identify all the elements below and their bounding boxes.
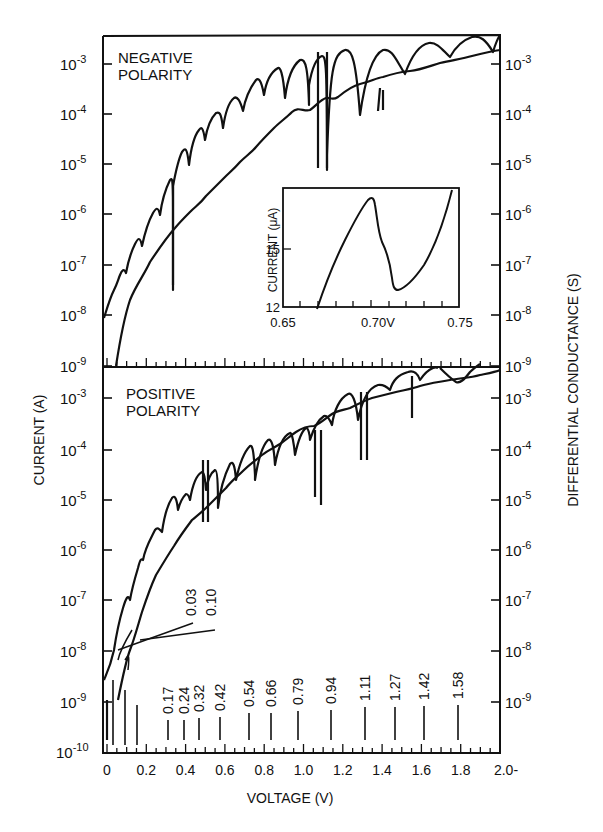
inset-x-tick-075: 0.75 (447, 315, 472, 330)
inset-y-tick-15: 15 (266, 242, 280, 257)
peak-voltage-label: 0.54 (241, 680, 257, 707)
top-panel-title-line2: POLARITY (118, 66, 192, 83)
peak-voltage-label: 0.94 (323, 677, 339, 704)
right-y-tick-label: 10-6 (505, 539, 531, 559)
bottom-current-curve (118, 370, 500, 700)
right-y-tick-label: 10-4 (505, 103, 531, 123)
inset-y-tick-12: 12 (266, 300, 280, 315)
left-y-tick-label: 10-9 (60, 691, 86, 711)
peak-voltage-label: 1.42 (416, 673, 432, 700)
left-y-tick-labels: 10-310-410-510-610-710-810-910-310-410-5… (56, 53, 89, 761)
figure: 10-310-410-510-610-710-810-910-310-410-5… (0, 0, 603, 832)
left-y-tick-label: 10-8 (60, 640, 86, 660)
right-axis-title: DIFFERENTIAL CONDUCTANCE (S) (565, 273, 581, 506)
right-y-tick-label: 10-6 (505, 203, 531, 223)
x-tick-label: 1.8 (451, 762, 471, 778)
left-y-tick-label: 10-4 (60, 103, 86, 123)
peak-voltage-label: 0.24 (176, 687, 192, 714)
x-tick-label: 0.2 (137, 762, 157, 778)
y-axis-ticks (103, 64, 500, 702)
right-y-tick-label: 10-7 (505, 589, 531, 609)
inset-chart: CURRENT (μA) 15 12 0.65 0.70V 0.75 (266, 188, 473, 330)
peak-voltage-label: 1.58 (450, 672, 466, 699)
peak-voltage-label: 0.79 (290, 678, 306, 705)
top-panel-title-line1: NEGATIVE (118, 49, 193, 66)
peak-voltage-markers: 0.170.240.320.420.540.660.790.941.111.27… (113, 672, 466, 745)
bottom-panel-title-line1: POSITIVE (126, 385, 195, 402)
inset-x-tick-070: 0.70V (361, 315, 395, 330)
right-y-tick-label: 10-5 (505, 489, 531, 509)
peak-voltage-label: 0.66 (263, 680, 279, 707)
peak-voltage-label: 1.27 (387, 674, 403, 701)
peak-voltage-label: 0.17 (160, 687, 176, 714)
line-label-010: 0.10 (203, 589, 219, 616)
x-tick-label: 1.0 (294, 762, 314, 778)
left-y-tick-label: 10-6 (60, 539, 86, 559)
left-y-tick-label: 10-8 (60, 304, 86, 324)
left-axis-title: CURRENT (A) (31, 395, 47, 486)
peak-voltage-label: 1.11 (357, 675, 373, 701)
right-y-tick-label: 10-8 (505, 640, 531, 660)
right-y-tick-label: 10-8 (505, 304, 531, 324)
x-tick-label: 1.6 (412, 762, 432, 778)
left-y-tick-label: 10-5 (60, 153, 86, 173)
right-y-tick-label: 10-9 (505, 691, 531, 711)
right-y-tick-label: 10-9 (505, 355, 531, 375)
right-y-tick-label: 10-3 (505, 387, 531, 407)
x-tick-label: 0 (103, 762, 111, 778)
x-tick-label: 1.2 (333, 762, 353, 778)
x-tick-labels: 00.20.40.60.81.01.21.41.61.82.0- (103, 762, 518, 778)
left-y-tick-label: 10-10 (56, 741, 89, 761)
x-tick-label: 0.6 (215, 762, 235, 778)
left-y-tick-label: 10-3 (60, 387, 86, 407)
left-y-tick-label: 10-3 (60, 53, 86, 73)
bottom-panel-title-line2: POLARITY (126, 402, 200, 419)
x-tick-label: 2.0- (494, 762, 518, 778)
right-y-tick-label: 10-3 (505, 53, 531, 73)
x-axis-title: VOLTAGE (V) (247, 790, 334, 806)
right-y-tick-labels: 10-310-410-510-610-710-810-910-310-410-5… (505, 53, 531, 711)
right-y-tick-label: 10-5 (505, 153, 531, 173)
x-tick-label: 1.4 (372, 762, 392, 778)
left-y-tick-label: 10-5 (60, 489, 86, 509)
left-y-tick-label: 10-4 (60, 439, 86, 459)
low-voltage-annotation-lines (118, 623, 215, 670)
peak-voltage-label: 0.32 (191, 685, 207, 712)
left-y-tick-label: 10-7 (60, 254, 86, 274)
x-tick-label: 0.8 (254, 762, 274, 778)
right-y-tick-label: 10-7 (505, 254, 531, 274)
right-y-tick-label: 10-4 (505, 439, 531, 459)
left-y-tick-label: 10-6 (60, 203, 86, 223)
inset-x-tick-065: 0.65 (270, 315, 295, 330)
x-tick-label: 0.4 (176, 762, 196, 778)
peak-voltage-label: 0.42 (212, 684, 228, 711)
line-label-003: 0.03 (183, 589, 199, 616)
left-y-tick-label: 10-9 (60, 355, 86, 375)
left-y-tick-label: 10-7 (60, 589, 86, 609)
